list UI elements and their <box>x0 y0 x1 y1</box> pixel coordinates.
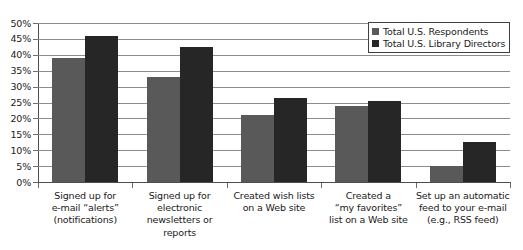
x-axis-category-label: Signed up fore-mail “alerts”(notificatio… <box>38 190 132 227</box>
y-axis-labels: 50%45%40%35%30%25%20%15%10%5%0% <box>0 0 31 250</box>
y-axis-tick-label: 5% <box>0 162 31 172</box>
y-axis-tick-label: 10% <box>0 146 31 156</box>
bar[interactable] <box>147 77 180 182</box>
y-axis-tick-label: 45% <box>0 34 31 44</box>
legend-label: Total U.S. Library Directors <box>383 38 505 49</box>
y-axis-tick-mark <box>33 134 38 135</box>
x-axis-tick-mark <box>510 183 511 188</box>
y-axis-tick-mark <box>33 55 38 56</box>
x-axis-category-label: Set up an automaticfeed to your e-mail(e… <box>416 190 510 227</box>
bar[interactable] <box>52 58 85 182</box>
bar-group <box>132 23 226 182</box>
y-axis-tick-mark <box>33 118 38 119</box>
bar[interactable] <box>85 36 118 182</box>
y-axis-tick-label: 0% <box>0 178 31 188</box>
bar[interactable] <box>274 98 307 182</box>
x-axis-tick-mark <box>132 183 133 188</box>
bar-group <box>227 23 321 182</box>
y-axis-tick-mark <box>33 103 38 104</box>
bar-chart: 50%45%40%35%30%25%20%15%10%5%0% Total U.… <box>0 0 523 250</box>
y-axis-tick-label: 40% <box>0 50 31 60</box>
x-axis-tick-mark <box>38 183 39 188</box>
y-axis-tick-mark <box>33 23 38 24</box>
legend-swatch-icon <box>372 28 379 35</box>
y-axis-tick-mark <box>33 71 38 72</box>
x-axis-category-label: Created wish listson a Web site <box>227 190 321 214</box>
bar[interactable] <box>180 47 213 182</box>
bar[interactable] <box>430 166 463 182</box>
y-axis-tick-mark <box>33 166 38 167</box>
y-axis-tick-mark <box>33 87 38 88</box>
bar[interactable] <box>463 142 496 182</box>
x-axis-category-label: Created a“my favorites”list on a Web sit… <box>321 190 415 227</box>
bar[interactable] <box>241 115 274 182</box>
legend-label: Total U.S. Respondents <box>383 26 488 37</box>
x-axis-tick-mark <box>416 183 417 188</box>
y-axis-tick-label: 35% <box>0 66 31 76</box>
legend-item[interactable]: Total U.S. Respondents <box>372 25 505 37</box>
x-axis-line <box>38 182 511 183</box>
y-axis-tick-label: 15% <box>0 130 31 140</box>
x-axis-tick-mark <box>227 183 228 188</box>
x-axis-tick-mark <box>321 183 322 188</box>
y-axis-tick-label: 20% <box>0 114 31 124</box>
chart-legend: Total U.S. RespondentsTotal U.S. Library… <box>368 22 510 53</box>
y-axis-tick-mark <box>33 150 38 151</box>
x-axis-category-label: Signed up forelectronicnewsletters orrep… <box>132 190 226 239</box>
bar[interactable] <box>368 101 401 182</box>
y-axis-tick-label: 50% <box>0 19 31 29</box>
y-axis-tick-label: 25% <box>0 98 31 108</box>
bar[interactable] <box>335 106 368 182</box>
y-axis-tick-label: 30% <box>0 82 31 92</box>
legend-swatch-icon <box>372 40 379 47</box>
x-axis-labels: Signed up fore-mail “alerts”(notificatio… <box>38 190 511 248</box>
legend-item[interactable]: Total U.S. Library Directors <box>372 37 505 49</box>
y-axis-tick-mark <box>33 39 38 40</box>
bar-group <box>38 23 132 182</box>
